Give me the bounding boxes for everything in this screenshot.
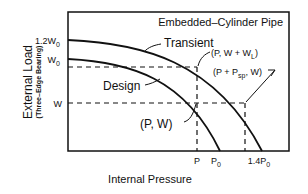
x-tick-p: P (194, 156, 200, 166)
x-tick-p0: P0 (211, 156, 221, 168)
design-label: Design (103, 79, 140, 93)
plot-frame (68, 12, 289, 151)
transient-label: Transient (164, 36, 214, 50)
x-axis-label: Internal Pressure (108, 173, 192, 185)
diagram-title: Embedded–Cylinder Pipe (158, 16, 283, 28)
diagram: Embedded–Cylinder Pipe Transient Design … (0, 0, 308, 194)
y-axis-label: External Load (21, 45, 35, 119)
point-p-w: (P, W) (140, 117, 172, 131)
x-tick-1-4p0: 1.4P0 (248, 156, 271, 168)
point-p-plus-psp-w: (P + Psp, W) (213, 67, 262, 80)
y-tick-w0: W0 (48, 55, 61, 67)
ppsp-arrow (268, 70, 275, 76)
transient-leader (144, 44, 161, 52)
y-axis-sublabel: (Three–Edge Bearing) (35, 46, 43, 119)
point-p-w-plus-wl: (P, W + WL) (211, 48, 258, 60)
design-leader (145, 79, 160, 85)
y-tick-w: W (54, 99, 63, 109)
pwwl-leader (198, 52, 210, 66)
